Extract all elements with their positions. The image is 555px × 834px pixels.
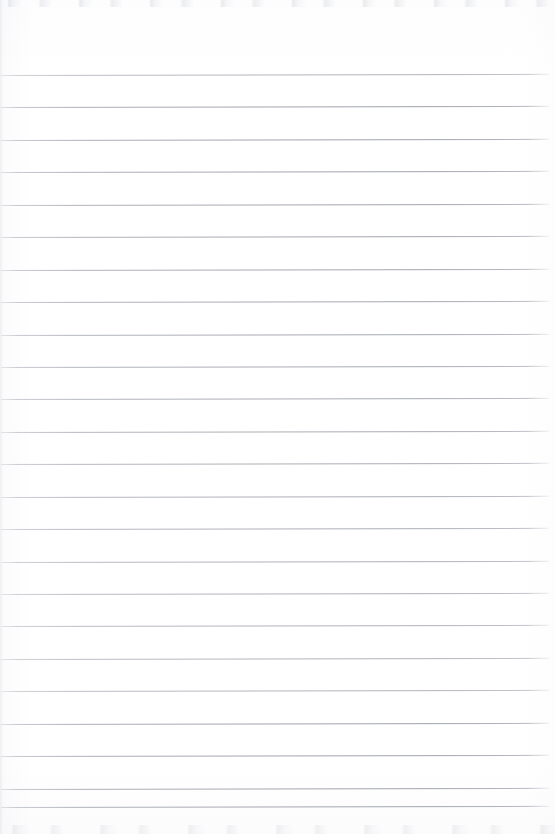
lined-paper-page [0,0,555,834]
page-text-content [0,0,555,834]
